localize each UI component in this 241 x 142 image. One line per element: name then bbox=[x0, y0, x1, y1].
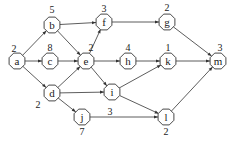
edge-label-j-l: 3 bbox=[108, 106, 113, 117]
node-label: c bbox=[48, 55, 53, 67]
edge-a-d bbox=[23, 66, 46, 87]
edge-b-e bbox=[58, 31, 81, 55]
node-weight-l: 2 bbox=[164, 126, 169, 137]
node-f: f bbox=[96, 14, 112, 30]
node-l: l bbox=[158, 109, 174, 125]
node-e: e bbox=[78, 53, 94, 69]
edge-e-i bbox=[91, 67, 107, 86]
node-label: g bbox=[164, 16, 170, 28]
node-c: c bbox=[42, 53, 58, 69]
node-weight-b: 5 bbox=[50, 4, 55, 15]
node-weight-k: 1 bbox=[166, 42, 171, 53]
node-b: b bbox=[44, 17, 60, 33]
edge-d-e bbox=[58, 67, 80, 88]
node-label: a bbox=[15, 55, 20, 67]
node-j: j bbox=[74, 109, 90, 125]
edge-i-l bbox=[119, 95, 158, 113]
edge-a-b bbox=[23, 31, 47, 56]
node-weight-d: 2 bbox=[36, 99, 41, 110]
node-a: a bbox=[9, 53, 25, 69]
node-h: h bbox=[120, 53, 136, 69]
node-weight-g: 2 bbox=[165, 2, 170, 13]
node-label: f bbox=[102, 16, 106, 28]
node-k: k bbox=[160, 53, 176, 69]
node-weight-f: 3 bbox=[102, 3, 107, 14]
node-d: d bbox=[44, 85, 60, 101]
edges-layer bbox=[23, 22, 213, 117]
node-weight-a: 2 bbox=[12, 43, 17, 54]
node-weight-h: 4 bbox=[126, 42, 131, 53]
edge-d-j bbox=[58, 98, 76, 112]
graph-diagram: abcdefghijklm 3258223247123 bbox=[0, 0, 241, 142]
node-i: i bbox=[104, 84, 120, 100]
edge-l-m bbox=[171, 67, 212, 111]
node-label: e bbox=[84, 55, 89, 67]
edge-d-i bbox=[60, 92, 104, 93]
edge-g-m bbox=[173, 27, 211, 56]
nodes-layer: abcdefghijklm bbox=[9, 14, 226, 125]
node-label: i bbox=[110, 86, 113, 98]
node-label: h bbox=[125, 55, 131, 67]
node-label: k bbox=[165, 55, 171, 67]
node-label: l bbox=[164, 111, 167, 123]
node-label: m bbox=[214, 55, 223, 67]
node-label: b bbox=[49, 19, 55, 31]
node-label: d bbox=[49, 87, 55, 99]
node-g: g bbox=[159, 14, 175, 30]
node-m: m bbox=[210, 53, 226, 69]
edge-b-f bbox=[60, 23, 96, 25]
node-weight-j: 7 bbox=[80, 126, 85, 137]
node-weight-e: 2 bbox=[89, 42, 94, 53]
node-label: j bbox=[79, 111, 83, 123]
node-weight-m: 3 bbox=[218, 42, 223, 53]
node-weight-c: 8 bbox=[48, 42, 53, 53]
